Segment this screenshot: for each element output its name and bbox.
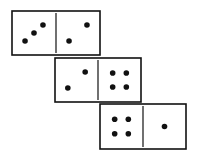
pip-right — [124, 84, 130, 90]
pip-right — [124, 70, 130, 76]
domino-1 — [12, 11, 100, 55]
pip-left — [22, 38, 28, 44]
domino-2 — [55, 58, 141, 102]
domino-diagram — [0, 0, 199, 155]
pip-right — [84, 22, 90, 28]
pip-left — [112, 116, 118, 122]
pip-left — [126, 131, 132, 137]
pip-right — [162, 124, 168, 130]
pip-left — [65, 85, 71, 91]
pip-left — [40, 22, 46, 28]
pip-right — [110, 84, 116, 90]
domino-3 — [100, 104, 186, 149]
pip-left — [31, 30, 37, 36]
pip-right — [66, 38, 72, 44]
pip-right — [110, 70, 116, 76]
pip-left — [126, 116, 132, 122]
pip-left — [112, 131, 118, 137]
pip-left — [82, 69, 88, 75]
